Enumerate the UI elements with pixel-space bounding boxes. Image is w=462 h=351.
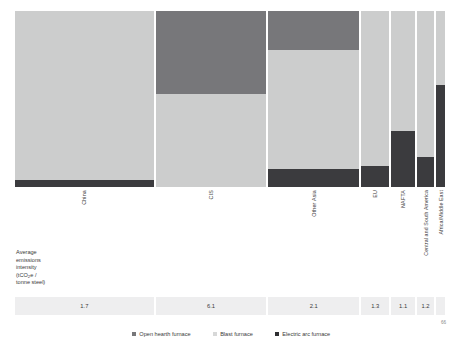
legend-item-electric-arc-furnace[interactable]: Electric arc furnace	[275, 331, 330, 337]
category-label-other-asia: Other Asia	[311, 190, 318, 217]
column-africa-middle-east[interactable]	[436, 11, 445, 187]
category-label-china: China	[81, 190, 88, 205]
axis-caption-line-3: intensity	[16, 264, 78, 272]
segment-blast-furnace	[361, 11, 389, 166]
category-cell: Central and South America	[417, 190, 434, 260]
axis-caption-line-5: tonne steel)	[16, 279, 78, 287]
legend-item-open-hearth-furnace[interactable]: Open hearth furnace	[132, 331, 191, 337]
legend-label: Electric arc furnace	[282, 331, 330, 337]
segment-electric-arc	[436, 85, 445, 187]
axis-caption-line-1: Average	[16, 249, 78, 257]
segment-electric-arc	[361, 166, 389, 187]
segment-blast-furnace	[436, 11, 445, 85]
segment-electric-arc	[15, 180, 154, 187]
category-label-eu: EU	[372, 190, 379, 198]
segment-blast-furnace	[417, 11, 434, 157]
column-china[interactable]	[15, 11, 154, 187]
legend-swatch-icon	[275, 332, 280, 337]
value-cis: 6.1	[156, 297, 267, 315]
category-cell: NAFTA	[391, 190, 415, 260]
axis-caption-line-4: (tCO2e /	[16, 272, 78, 280]
axis-caption: Average emissions intensity (tCO2e / ton…	[16, 249, 78, 287]
value-central-and-south-america: 1.2	[417, 297, 434, 315]
legend-label: Blast furnace	[220, 331, 253, 337]
axis-caption-line-2: emissions	[16, 257, 78, 265]
segment-electric-arc	[391, 131, 415, 187]
axis-caption-unit-pre: (tCO	[16, 272, 28, 278]
column-nafta[interactable]	[391, 11, 415, 187]
value-other-asia: 2.1	[268, 297, 359, 315]
column-central-and-south-america[interactable]	[417, 11, 434, 187]
footer-page-mark: 66	[441, 320, 446, 325]
segment-electric-arc	[417, 157, 434, 187]
plot-area	[15, 11, 445, 187]
segment-electric-arc	[268, 169, 359, 187]
category-label-africa-middle-east: Africa/Middle East	[437, 190, 444, 235]
marimekko-chart: China CIS Other Asia EU NAFTA Central an…	[0, 0, 462, 351]
legend-label: Open hearth furnace	[139, 331, 190, 337]
emissions-intensity-values: 1.7 6.1 2.1 1.3 1.1 1.2	[15, 297, 445, 315]
axis-caption-subscript: 2	[28, 274, 30, 279]
category-cell: Other Asia	[268, 190, 359, 260]
legend-swatch-icon	[132, 332, 137, 337]
axis-caption-unit-post: e /	[30, 272, 36, 278]
value-eu: 1.3	[361, 297, 389, 315]
segment-open-hearth	[156, 11, 267, 94]
legend-item-blast-furnace[interactable]: Blast furnace	[213, 331, 253, 337]
segment-open-hearth	[268, 11, 359, 50]
category-cell: EU	[361, 190, 389, 260]
legend: Open hearth furnace Blast furnace Electr…	[0, 331, 462, 337]
column-other-asia[interactable]	[268, 11, 359, 187]
segment-blast-furnace	[268, 50, 359, 170]
value-africa-middle-east	[436, 297, 445, 315]
legend-swatch-icon	[213, 332, 218, 337]
category-label-cis: CIS	[208, 190, 215, 199]
category-label-nafta: NAFTA	[400, 190, 407, 208]
category-cell: Africa/Middle East	[436, 190, 445, 260]
category-axis-labels: China CIS Other Asia EU NAFTA Central an…	[15, 190, 445, 260]
category-cell: CIS	[156, 190, 267, 260]
value-china: 1.7	[15, 297, 154, 315]
segment-blast-furnace	[15, 11, 154, 180]
segment-blast-furnace	[156, 94, 267, 187]
column-eu[interactable]	[361, 11, 389, 187]
value-nafta: 1.1	[391, 297, 415, 315]
segment-blast-furnace	[391, 11, 415, 131]
category-label-central-and-south-america: Central and South America	[422, 190, 429, 256]
column-cis[interactable]	[156, 11, 267, 187]
